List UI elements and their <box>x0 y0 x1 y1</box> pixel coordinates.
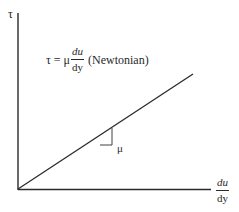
x-axis-label-numerator: du <box>216 177 229 191</box>
diagram-canvas <box>0 0 239 212</box>
equation-note: (Newtonian) <box>88 54 149 66</box>
equation-lhs: τ = μ <box>46 54 70 66</box>
x-axis-label: du dy <box>216 177 229 204</box>
slope-label: μ <box>117 143 123 154</box>
x-axis-label-denominator: dy <box>217 191 228 204</box>
y-axis-label: τ <box>8 8 13 20</box>
equation-numerator: du <box>71 46 84 60</box>
equation-denominator: dy <box>72 60 83 73</box>
newtonian-line <box>18 74 193 189</box>
equation-fraction: du dy <box>71 46 84 73</box>
